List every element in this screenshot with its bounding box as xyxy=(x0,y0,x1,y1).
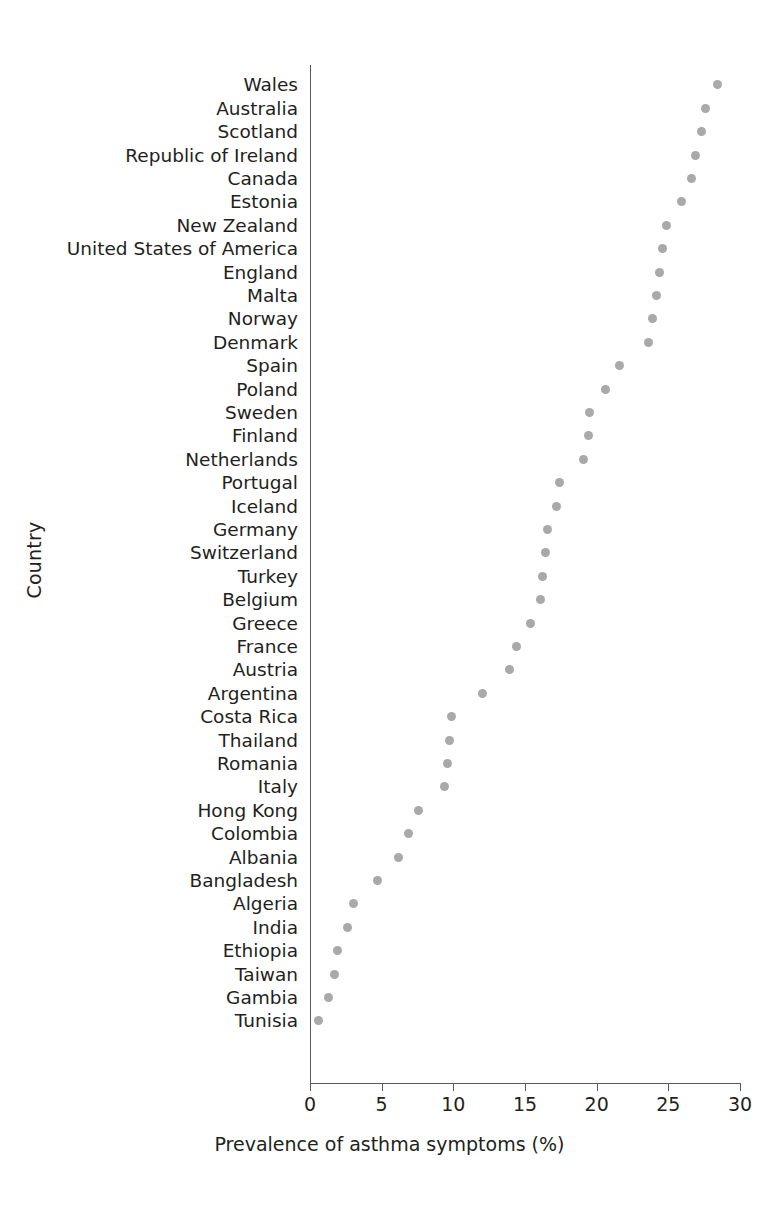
data-point-marker xyxy=(505,665,514,674)
category-label: Algeria xyxy=(2,892,298,915)
data-row: Belgium xyxy=(2,588,740,611)
category-label: Austria xyxy=(2,658,298,681)
data-point-marker xyxy=(601,385,610,394)
data-point-marker xyxy=(691,151,700,160)
category-label: Costa Rica xyxy=(2,705,298,728)
data-row: Thailand xyxy=(2,729,740,752)
data-point-marker xyxy=(677,197,686,206)
category-label: Hong Kong xyxy=(2,799,298,822)
x-axis-tick-label: 5 xyxy=(352,1093,412,1115)
data-row: Finland xyxy=(2,424,740,447)
category-label: Thailand xyxy=(2,729,298,752)
x-axis-tick-label: 15 xyxy=(495,1093,555,1115)
data-row: Colombia xyxy=(2,822,740,845)
category-label: Bangladesh xyxy=(2,869,298,892)
data-row: Malta xyxy=(2,284,740,307)
data-row: Republic of Ireland xyxy=(2,144,740,167)
data-row: New Zealand xyxy=(2,214,740,237)
category-label: Gambia xyxy=(2,986,298,1009)
data-point-marker xyxy=(644,338,653,347)
x-axis-tick xyxy=(453,1084,454,1091)
data-point-marker xyxy=(585,408,594,417)
data-point-marker xyxy=(555,478,564,487)
data-point-marker xyxy=(538,572,547,581)
data-row: Romania xyxy=(2,752,740,775)
category-label: Wales xyxy=(2,73,298,96)
data-point-marker xyxy=(404,829,413,838)
data-point-marker xyxy=(447,712,456,721)
x-axis-tick xyxy=(525,1084,526,1091)
data-row: Netherlands xyxy=(2,448,740,471)
data-point-marker xyxy=(652,291,661,300)
data-point-marker xyxy=(512,642,521,651)
data-point-marker xyxy=(615,361,624,370)
data-row: Bangladesh xyxy=(2,869,740,892)
data-row: Greece xyxy=(2,612,740,635)
data-row: Canada xyxy=(2,167,740,190)
category-label: Poland xyxy=(2,378,298,401)
x-axis-tick-label: 0 xyxy=(280,1093,340,1115)
category-label: Australia xyxy=(2,97,298,120)
category-label: Malta xyxy=(2,284,298,307)
category-label: Estonia xyxy=(2,190,298,213)
data-row: Australia xyxy=(2,97,740,120)
data-row: Switzerland xyxy=(2,541,740,564)
category-label: Denmark xyxy=(2,331,298,354)
asthma-prevalence-dot-plot: Country WalesAustraliaScotlandRepublic o… xyxy=(0,0,779,1215)
category-label: Germany xyxy=(2,518,298,541)
category-label: England xyxy=(2,261,298,284)
category-label: Scotland xyxy=(2,120,298,143)
data-row: Portugal xyxy=(2,471,740,494)
data-point-marker xyxy=(440,782,449,791)
data-row: Italy xyxy=(2,775,740,798)
data-row: Turkey xyxy=(2,565,740,588)
data-row: Ethiopia xyxy=(2,939,740,962)
category-label: Spain xyxy=(2,354,298,377)
data-point-marker xyxy=(543,525,552,534)
category-label: Netherlands xyxy=(2,448,298,471)
data-point-marker xyxy=(713,80,722,89)
data-point-marker xyxy=(541,548,550,557)
data-point-marker xyxy=(658,244,667,253)
data-row: Taiwan xyxy=(2,963,740,986)
x-axis-title: Prevalence of asthma symptoms (%) xyxy=(0,1133,779,1155)
data-point-marker xyxy=(443,759,452,768)
category-label: Belgium xyxy=(2,588,298,611)
category-label: Albania xyxy=(2,846,298,869)
x-axis-tick xyxy=(597,1084,598,1091)
data-row: Germany xyxy=(2,518,740,541)
data-point-marker xyxy=(584,431,593,440)
data-row: England xyxy=(2,261,740,284)
category-label: Argentina xyxy=(2,682,298,705)
category-label: India xyxy=(2,916,298,939)
data-point-marker xyxy=(648,314,657,323)
data-point-marker xyxy=(478,689,487,698)
category-label: Italy xyxy=(2,775,298,798)
category-label: Republic of Ireland xyxy=(2,144,298,167)
category-label: France xyxy=(2,635,298,658)
data-point-marker xyxy=(662,221,671,230)
x-axis-tick-label: 10 xyxy=(423,1093,483,1115)
data-row: France xyxy=(2,635,740,658)
x-axis-tick xyxy=(740,1084,741,1091)
plot-area: WalesAustraliaScotlandRepublic of Irelan… xyxy=(310,65,740,1083)
category-label: Turkey xyxy=(2,565,298,588)
data-point-marker xyxy=(526,619,535,628)
data-row: Poland xyxy=(2,378,740,401)
data-point-marker xyxy=(330,970,339,979)
category-label: Greece xyxy=(2,612,298,635)
data-row: Estonia xyxy=(2,190,740,213)
category-label: New Zealand xyxy=(2,214,298,237)
category-label: Iceland xyxy=(2,495,298,518)
x-axis-tick-label: 25 xyxy=(638,1093,698,1115)
data-point-marker xyxy=(349,899,358,908)
data-point-marker xyxy=(697,127,706,136)
data-point-marker xyxy=(333,946,342,955)
data-point-marker xyxy=(701,104,710,113)
data-point-marker xyxy=(655,268,664,277)
x-axis-tick xyxy=(382,1084,383,1091)
data-row: Costa Rica xyxy=(2,705,740,728)
data-row: India xyxy=(2,916,740,939)
category-label: Taiwan xyxy=(2,963,298,986)
x-axis-tick xyxy=(310,1084,311,1091)
